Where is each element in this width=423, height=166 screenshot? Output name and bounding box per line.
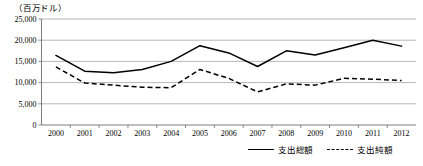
y-axis-tick-label: 25,000: [15, 15, 37, 24]
x-axis-tick-label: 2006: [221, 129, 237, 138]
x-axis-tick-label: 2008: [278, 129, 294, 138]
x-axis-tick-label: 2011: [365, 129, 381, 138]
legend-item-net-expenditure: 支出純額: [327, 143, 392, 155]
x-axis-tick-label: 2007: [250, 129, 266, 138]
x-axis-tick-label: 2010: [336, 129, 352, 138]
x-axis-tick-label: 2003: [134, 129, 150, 138]
y-axis-tick-label: 15,000: [15, 57, 37, 66]
series-line-net-expenditure: [56, 67, 402, 92]
x-axis-tick-label: 2002: [106, 129, 122, 138]
chart-plot-area: 05,00010,00015,00020,00025,000 200020012…: [0, 0, 423, 166]
series-line-total-expenditure: [56, 40, 402, 73]
y-axis-tick-label: 20,000: [15, 36, 37, 45]
data-series: [56, 40, 402, 92]
gridlines: [42, 19, 417, 104]
line-chart-figure: （百万ドル） 05,00010,00015,00020,00025,000 20…: [0, 0, 423, 166]
x-axis-tick-label: 2001: [77, 129, 93, 138]
y-axis-tick-labels: 05,00010,00015,00020,00025,000: [15, 15, 37, 130]
x-axis-tick-label: 2005: [192, 129, 208, 138]
x-axis-tick-label: 2012: [394, 129, 410, 138]
legend-label-total-expenditure: 支出総額: [278, 143, 313, 155]
legend-label-net-expenditure: 支出純額: [357, 143, 392, 155]
chart-legend: 支出総額 支出純額: [248, 143, 392, 155]
legend-item-total-expenditure: 支出総額: [248, 143, 313, 155]
y-axis-tick-label: 0: [33, 121, 37, 130]
x-axis-tick-label: 2004: [163, 129, 179, 138]
y-axis-tick-label: 10,000: [15, 78, 37, 87]
legend-line-solid-icon: [248, 146, 274, 153]
x-axis-tick-labels: 2000200120022003200420052006200720082009…: [48, 129, 410, 138]
x-axis-tick-label: 2009: [307, 129, 323, 138]
y-axis-tick-label: 5,000: [19, 100, 37, 109]
x-axis-tick-label: 2000: [48, 129, 64, 138]
legend-line-dashed-icon: [327, 146, 353, 153]
